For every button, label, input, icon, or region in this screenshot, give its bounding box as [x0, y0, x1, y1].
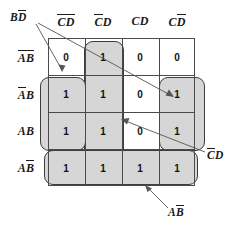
kmap-cell-r2c1: 1 [85, 113, 121, 149]
kmap-cell-r1c3: 1 [159, 76, 195, 112]
kmap-cell-r1c1: 1 [85, 76, 121, 112]
column-header-1: CD [85, 14, 121, 30]
kmap-cell-r2c2: 0 [122, 113, 158, 149]
row-header-2: AB [8, 124, 44, 139]
column-header-0: CD [48, 14, 84, 30]
kmap-cell-r0c2: 0 [122, 39, 158, 75]
row-header-0: AB [8, 50, 44, 66]
kmap-cell-r3c1: 1 [85, 150, 121, 186]
annotation-ab: AB [168, 205, 184, 218]
karnaugh-map-diagram: CD CD CD CD AB AB AB AB 0 1 0 0 1 1 0 1 … [0, 0, 239, 226]
kmap-cell-r1c2: 0 [122, 76, 158, 112]
kmap-cell-r0c1: 1 [85, 39, 121, 75]
kmap-cell-r3c2: 1 [122, 150, 158, 186]
annotation-cd: CD [207, 148, 223, 161]
kmap-cell-r2c0: 1 [48, 113, 84, 149]
kmap-cell-r0c3: 0 [159, 39, 195, 75]
kmap-cell-r3c0: 1 [48, 150, 84, 186]
column-header-3: CD [159, 14, 195, 30]
column-header-2: CD [122, 14, 158, 29]
row-header-1: AB [8, 87, 44, 103]
annotation-bd: BD [10, 10, 26, 23]
kmap-cell-r1c0: 1 [48, 76, 84, 112]
kmap-cell-r2c3: 1 [159, 113, 195, 149]
kmap-cell-r0c0: 0 [48, 39, 84, 75]
kmap-cell-r3c3: 1 [159, 150, 195, 186]
row-header-3: AB [8, 160, 44, 176]
